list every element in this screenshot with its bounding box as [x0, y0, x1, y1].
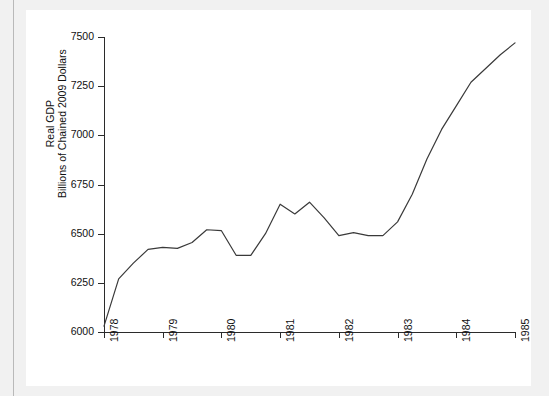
series-layer [26, 10, 531, 386]
chart-card: 6000625065006750700072507500 19781979198… [26, 10, 531, 386]
figure-page: 6000625065006750700072507500 19781979198… [0, 0, 549, 396]
real-gdp-line [104, 43, 515, 326]
page-edge-rule [13, 0, 14, 396]
plot-area: 6000625065006750700072507500 19781979198… [26, 10, 531, 386]
